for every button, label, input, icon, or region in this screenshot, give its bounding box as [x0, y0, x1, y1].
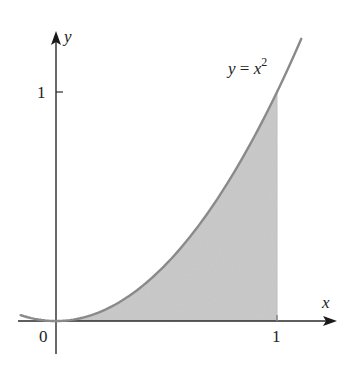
origin-label: 0: [39, 327, 48, 346]
shaded-area-texture: [56, 92, 277, 321]
x-axis-label: x: [321, 293, 330, 312]
y-tick-label-1: 1: [37, 83, 46, 102]
equation-lhs: y: [226, 59, 236, 78]
y-axis-label: y: [62, 27, 72, 46]
equation-equals: =: [236, 59, 254, 78]
equation-exponent: 2: [261, 55, 267, 69]
curve-equation-label: y = x2: [226, 55, 267, 78]
area-under-parabola-diagram: y x 1 1 0 y = x2: [0, 0, 349, 377]
x-tick-label-1: 1: [272, 327, 281, 346]
